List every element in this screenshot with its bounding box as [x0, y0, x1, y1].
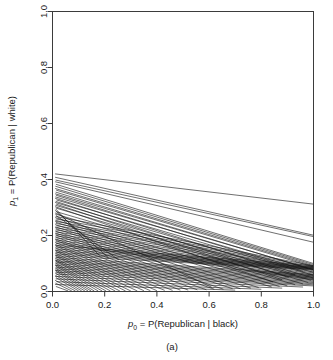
- x-tick-label: 0.4: [150, 299, 163, 310]
- x-tick-label: 0.2: [98, 299, 111, 310]
- y-tick-label: 1.0: [38, 5, 49, 18]
- x-axis-label: p0 = P(Republican | black): [127, 318, 238, 331]
- x-tick-label: 1.0: [307, 299, 320, 310]
- y-axis-label: p1 = P(Republican | white): [6, 96, 19, 207]
- y-tick-label: 0.4: [38, 173, 49, 186]
- figure-panel-a: 0.00.20.40.60.81.0 0.00.20.40.60.81.0 p0…: [0, 0, 333, 360]
- x-axis-label-rest: = P(Republican | black): [137, 318, 238, 329]
- figure-caption: (a): [166, 341, 178, 352]
- x-tick-label: 0.6: [202, 299, 215, 310]
- y-tick-label: 0.6: [38, 117, 49, 130]
- y-axis-label-rest: = P(Republican | white): [6, 96, 17, 197]
- y-tick-label: 0.8: [38, 61, 49, 74]
- tomography-line-plot: 0.00.20.40.60.81.0 0.00.20.40.60.81.0 p0…: [0, 0, 333, 360]
- y-tick-label: 0.0: [38, 285, 49, 298]
- x-tick-label: 0.0: [46, 299, 59, 310]
- x-tick-label: 0.8: [255, 299, 268, 310]
- y-tick-label: 0.2: [38, 229, 49, 242]
